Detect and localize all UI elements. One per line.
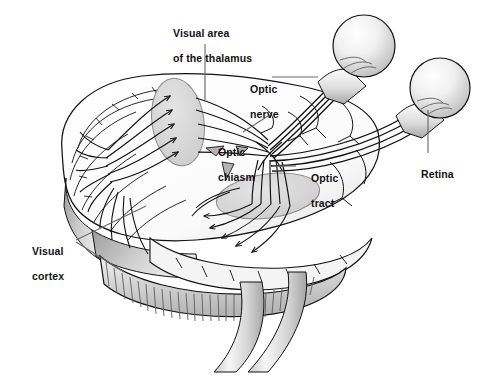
label-visual-cortex-line1: Visual	[32, 245, 63, 257]
label-thalamus-line2: of the thalamus	[173, 52, 252, 64]
label-retina: Retina	[409, 155, 454, 193]
label-optic-tract-line1: Optic	[311, 172, 338, 184]
label-retina-line1: Retina	[421, 168, 454, 180]
label-optic-chiasm-line2: chiasm	[218, 171, 255, 183]
label-thalamus-line1: Visual area	[173, 27, 229, 39]
eyeball-left	[318, 15, 395, 104]
label-visual-cortex: Visual cortex	[20, 232, 64, 295]
label-optic-tract-line2: tract	[311, 197, 334, 209]
figure-canvas: Visual area of the thalamus Optic nerve …	[0, 0, 480, 377]
label-optic-nerve: Optic nerve	[238, 70, 279, 133]
label-optic-chiasm: Optic chiasm	[206, 133, 255, 196]
label-visual-cortex-line2: cortex	[32, 270, 64, 282]
label-optic-chiasm-line1: Optic	[218, 146, 245, 158]
label-optic-nerve-line1: Optic	[250, 83, 277, 95]
label-visual-area-thalamus: Visual area of the thalamus	[161, 14, 252, 77]
label-optic-tract: Optic tract	[299, 159, 338, 222]
label-optic-nerve-line2: nerve	[250, 108, 279, 120]
eyeball-right	[396, 58, 470, 138]
